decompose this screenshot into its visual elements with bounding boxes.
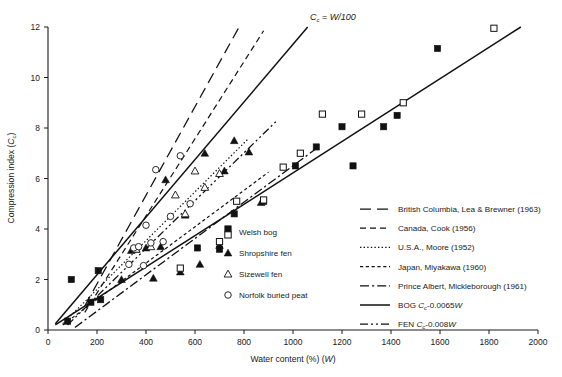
filled-square-icon <box>225 226 231 232</box>
data-point <box>231 211 237 217</box>
line-legend-label: British Columbia, Lea & Brewner (1963) <box>398 205 541 214</box>
data-point <box>143 222 150 229</box>
x-tick-label: 0 <box>46 337 51 347</box>
y-tick-label: 6 <box>35 174 40 184</box>
fit-line <box>85 27 239 306</box>
y-tick-label: 8 <box>35 123 40 133</box>
y-tick-label: 10 <box>31 73 41 83</box>
data-point <box>245 148 253 155</box>
y-tick-label: 0 <box>35 325 40 335</box>
line-legend-item-japan-miyakawa[interactable]: Japan, Miyakawa (1960) <box>360 263 486 272</box>
x-axis-ticks: 0200400600800100012001400160018002000 <box>46 330 548 347</box>
x-tick-label: 2000 <box>529 337 548 347</box>
marker-legend-item-welsh-bog[interactable]: Welsh bog <box>225 226 277 238</box>
y-axis-ticks: 024681012 <box>31 22 48 335</box>
data-point <box>234 198 240 204</box>
x-tick-label: 800 <box>237 337 251 347</box>
data-point <box>140 262 147 269</box>
x-tick-label: 1600 <box>431 337 450 347</box>
data-markers-group <box>65 25 498 324</box>
data-point <box>162 176 170 183</box>
x-tick-label: 400 <box>139 337 153 347</box>
data-point <box>216 239 222 245</box>
data-point <box>126 261 133 268</box>
data-point <box>292 163 298 169</box>
data-point <box>297 150 303 156</box>
data-point <box>339 124 345 130</box>
data-point <box>98 297 104 303</box>
line-legend-item-canada-cook[interactable]: Canada, Cook (1956) <box>360 224 476 233</box>
data-point <box>172 191 180 198</box>
data-point <box>88 299 94 305</box>
data-point <box>313 144 319 150</box>
data-point <box>319 111 325 117</box>
data-point <box>177 265 183 271</box>
data-point <box>148 240 155 247</box>
line-legend-item-bog-equation[interactable]: BOG Cc-0.0065W <box>360 301 464 311</box>
data-point <box>135 243 142 250</box>
fit-line <box>63 138 249 324</box>
x-axis-title: Water content (%) (W) <box>250 354 335 364</box>
line-legend-label: FEN Cc-0.008W <box>398 320 457 330</box>
line-legend: British Columbia, Lea & Brewner (1963)Ca… <box>360 205 541 330</box>
line-legend-label: BOG Cc-0.0065W <box>398 301 464 311</box>
line-legend-item-prince-albert[interactable]: Prince Albert, Mickleborough (1961) <box>360 282 527 291</box>
x-tick-label: 1200 <box>333 337 352 347</box>
data-point <box>194 245 200 251</box>
y-axis-title: Compression index (Cc) <box>6 132 17 223</box>
marker-legend-label: Sizewell fen <box>239 270 282 279</box>
chart-container: 0200400600800100012001400160018002000 02… <box>0 0 562 377</box>
data-point <box>224 249 232 256</box>
marker-legend-label: Norfolk buried peat <box>239 291 308 300</box>
data-point <box>381 124 387 130</box>
line-legend-label: Japan, Miyakawa (1960) <box>398 263 486 272</box>
data-point <box>177 153 184 160</box>
y-tick-label: 12 <box>31 22 41 32</box>
data-point <box>153 166 160 173</box>
data-point <box>261 197 267 203</box>
data-point <box>196 260 204 267</box>
data-point <box>224 270 232 277</box>
data-point <box>350 163 356 169</box>
data-point <box>167 213 174 220</box>
line-legend-item-british-columbia[interactable]: British Columbia, Lea & Brewner (1963) <box>360 205 541 214</box>
data-point <box>434 45 440 51</box>
marker-legend-label: Welsh bog <box>239 228 277 237</box>
compression-index-vs-water-content-chart: 0200400600800100012001400160018002000 02… <box>0 0 562 377</box>
data-point <box>68 276 74 282</box>
line-legend-label: Prince Albert, Mickleborough (1961) <box>398 282 527 291</box>
line-legend-label: Canada, Cook (1956) <box>398 224 476 233</box>
line-legend-item-fen-equation[interactable]: FEN Cc-0.008W <box>360 320 457 330</box>
marker-legend: Welsh bogShropshire fenSizewell fenNorfo… <box>224 226 308 300</box>
marker-legend-item-sizewell-fen[interactable]: Sizewell fen <box>224 270 282 279</box>
fit-line <box>55 27 307 324</box>
data-point <box>491 25 497 31</box>
fit-line <box>75 149 315 327</box>
data-point <box>359 111 365 117</box>
data-point <box>149 274 157 281</box>
line-legend-item-usa-moore[interactable]: U.S.A., Moore (1952) <box>360 243 475 252</box>
marker-legend-label: Shropshire fen <box>239 249 292 258</box>
fit-line <box>55 27 520 325</box>
data-point <box>230 137 238 144</box>
x-tick-label: 600 <box>188 337 202 347</box>
series-shropshire-fen <box>118 137 265 283</box>
data-point <box>160 238 167 245</box>
fit-line <box>85 31 264 313</box>
data-point <box>95 268 101 274</box>
x-tick-label: 1000 <box>284 337 303 347</box>
data-point <box>191 167 199 174</box>
x-tick-label: 200 <box>90 337 104 347</box>
x-tick-label: 1400 <box>382 337 401 347</box>
y-tick-label: 4 <box>35 224 40 234</box>
marker-legend-item-shropshire-fen[interactable]: Shropshire fen <box>224 249 292 258</box>
data-point <box>65 318 71 324</box>
line-legend-label: U.S.A., Moore (1952) <box>398 243 475 252</box>
data-point <box>400 100 406 106</box>
marker-legend-item-norfolk-buried-peat[interactable]: Norfolk buried peat <box>225 291 308 300</box>
data-point <box>201 183 209 190</box>
cc-w100-annotation: Cc = W/100 <box>310 12 356 23</box>
data-point <box>394 112 400 118</box>
data-point <box>181 210 189 217</box>
open-square-icon <box>225 232 231 238</box>
